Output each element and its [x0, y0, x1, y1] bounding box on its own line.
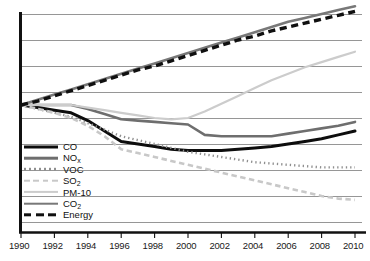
legend-label-subscript: 2: [77, 203, 81, 210]
legend-swatch-icon: [24, 164, 58, 175]
x-axis-tick-label: 1998: [143, 240, 163, 251]
series-line-energy: [21, 11, 355, 105]
x-axis-tick-label: 2010: [343, 240, 363, 251]
legend-swatch-icon: [24, 153, 58, 164]
chart-legend: CONOxVOCSO2PM-10CO2Energy: [24, 141, 104, 221]
legend-item-label: VOC: [63, 165, 84, 175]
legend-swatch-icon: [24, 198, 58, 209]
x-axis-tick-label: 1996: [109, 240, 129, 251]
legend-label-subscript: x: [77, 157, 81, 164]
legend-item-voc[interactable]: VOC: [24, 164, 104, 175]
x-axis-tick-label: 2006: [276, 240, 296, 251]
legend-item-co2[interactable]: CO2: [24, 198, 104, 209]
legend-swatch-icon: [24, 141, 58, 152]
legend-swatch-icon: [24, 175, 58, 186]
legend-item-label: Energy: [63, 210, 93, 220]
line-chart: 1990199219941996199820002002200420062008…: [0, 0, 370, 261]
legend-item-label: SO2: [63, 176, 81, 186]
legend-label-subscript: 2: [77, 180, 81, 187]
legend-swatch-icon: [24, 210, 58, 221]
series-line-nox: [21, 105, 355, 136]
legend-item-pm-10[interactable]: PM-10: [24, 187, 104, 198]
legend-item-label: CO: [63, 142, 77, 152]
chart-plot-area: [0, 0, 370, 261]
legend-item-label: NOx: [63, 153, 81, 163]
legend-item-label: PM-10: [63, 188, 91, 198]
legend-item-label: CO2: [63, 199, 81, 209]
legend-item-co[interactable]: CO: [24, 141, 104, 152]
x-axis-tick-label: 2002: [209, 240, 229, 251]
x-axis-tick-label: 1992: [42, 240, 62, 251]
x-axis-tick-label: 1994: [76, 240, 96, 251]
legend-item-nox[interactable]: NOx: [24, 152, 104, 163]
x-axis-tick-label: 2008: [310, 240, 330, 251]
x-axis-tick-label: 2000: [176, 240, 196, 251]
x-axis-tick-label: 1990: [9, 240, 29, 251]
legend-item-so2[interactable]: SO2: [24, 175, 104, 186]
series-line-pm-10: [21, 52, 355, 120]
legend-swatch-icon: [24, 187, 58, 198]
x-axis-tick-label: 2004: [243, 240, 263, 251]
legend-item-energy[interactable]: Energy: [24, 209, 104, 220]
